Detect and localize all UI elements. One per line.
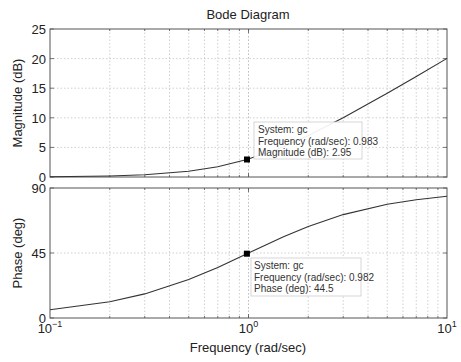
- chart-title: Bode Diagram: [206, 7, 289, 22]
- phase-ylabel: Phase (deg): [10, 218, 25, 289]
- x-tick-label: 10−1: [38, 319, 63, 336]
- magnitude-datatip[interactable]: System: gc Frequency (rad/sec): 0.983 Ma…: [244, 122, 378, 163]
- x-tick-label: 101: [437, 319, 456, 336]
- ph-tip-line1: System: gc: [254, 260, 303, 271]
- x-tick-label: 100: [239, 319, 258, 336]
- phase-panel: 04590 System: gc Frequency (rad/sec): 0.…: [10, 181, 447, 326]
- y-tick-label: 90: [32, 181, 46, 196]
- ph-tip-line2: Frequency (rad/sec): 0.982: [254, 272, 374, 283]
- mag-tip-line1: System: gc: [258, 124, 307, 135]
- magnitude-datatip-marker[interactable]: [244, 157, 250, 163]
- y-tick-label: 5: [39, 140, 46, 155]
- mag-tip-line2: Frequency (rad/sec): 0.983: [258, 136, 378, 147]
- x-tick-labels: 10−1100101: [38, 319, 457, 336]
- y-tick-label: 15: [32, 81, 46, 96]
- phase-datatip-marker[interactable]: [244, 251, 250, 257]
- y-tick-label: 25: [32, 22, 46, 37]
- mag-tip-line3: Magnitude (dB): 2.95: [258, 147, 352, 158]
- x-axis-label: Frequency (rad/sec): [190, 340, 306, 355]
- y-tick-label: 45: [32, 246, 46, 261]
- ph-tip-line3: Phase (deg): 44.5: [254, 283, 334, 294]
- y-tick-label: 10: [32, 111, 46, 126]
- y-tick-label: 20: [32, 52, 46, 67]
- bode-diagram: Bode Diagram 0510152025 System: gc Frequ…: [0, 0, 461, 362]
- magnitude-panel: 0510152025 System: gc Frequency (rad/sec…: [10, 22, 447, 185]
- magnitude-ylabel: Magnitude (dB): [10, 59, 25, 148]
